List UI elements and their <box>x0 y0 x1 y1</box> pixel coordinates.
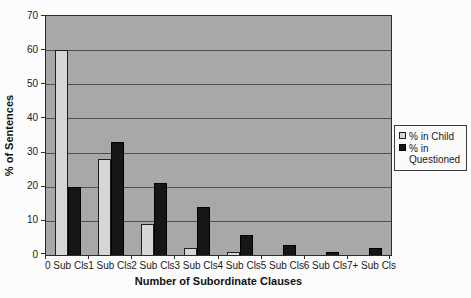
gridline <box>46 84 391 85</box>
gridline <box>46 50 391 51</box>
x-tick-mark <box>174 256 175 259</box>
bar-chart-figure: % of Sentences 010203040506070 0 Sub Cls… <box>0 0 471 298</box>
gridline <box>46 118 391 119</box>
x-axis-title: Number of Subordinate Clauses <box>45 275 392 287</box>
y-tick-label: 30 <box>0 146 38 157</box>
y-axis-labels: 010203040506070 <box>0 15 40 256</box>
bar-child-2-sub-cls <box>141 224 154 255</box>
x-category-label: 5 Sub Cls <box>261 260 304 271</box>
y-tick-label: 60 <box>0 44 38 55</box>
x-category-label: 2 Sub Cls <box>131 260 174 271</box>
plot-area <box>45 15 392 256</box>
y-tick-label: 50 <box>0 78 38 89</box>
bar-child-0-sub-cls <box>55 50 68 255</box>
x-tick-mark <box>347 256 348 259</box>
bar-child-3-sub-cls <box>184 248 197 255</box>
x-category-label: 3 Sub Cls <box>174 260 217 271</box>
x-tick-mark <box>304 256 305 259</box>
bar-questioned-3-sub-cls <box>197 207 210 255</box>
questioned-series-swatch-icon <box>399 144 406 151</box>
x-tick-mark <box>389 256 390 259</box>
x-category-label: 1 Sub Cls <box>88 260 131 271</box>
y-tick-label: 70 <box>0 10 38 21</box>
bar-questioned-0-sub-cls <box>68 187 81 255</box>
x-category-label: 4 Sub Cls <box>218 260 261 271</box>
child-series-swatch-icon <box>399 132 406 139</box>
x-tick-mark <box>45 256 46 259</box>
legend-label-questioned: % in Questioned <box>409 143 463 165</box>
bar-child-1-sub-cls <box>98 159 111 255</box>
bar-questioned-5-sub-cls <box>283 245 296 255</box>
legend-label-child: % in Child <box>409 131 454 142</box>
bar-questioned-2-sub-cls <box>154 183 167 255</box>
y-tick-label: 0 <box>0 249 38 260</box>
legend-item-questioned: % in Questioned <box>399 143 463 165</box>
legend: % in Child % in Questioned <box>394 125 467 171</box>
x-tick-mark <box>218 256 219 259</box>
gridline <box>46 153 391 154</box>
x-category-label: 0 Sub Cls <box>45 260 88 271</box>
x-tick-mark <box>88 256 89 259</box>
bar-questioned-4-sub-cls <box>240 235 253 255</box>
bar-child-4-sub-cls <box>227 252 240 255</box>
x-category-label: 6 Sub Cls <box>304 260 347 271</box>
bar-questioned-6-sub-cls <box>326 252 339 255</box>
x-category-label: 7+ Sub Cls <box>347 260 390 271</box>
bar-questioned-7-sub-cls <box>369 248 382 255</box>
x-tick-mark <box>261 256 262 259</box>
x-tick-mark <box>131 256 132 259</box>
y-tick-label: 20 <box>0 180 38 191</box>
x-axis-category-labels: 0 Sub Cls1 Sub Cls2 Sub Cls3 Sub Cls4 Su… <box>45 260 392 272</box>
bar-questioned-1-sub-cls <box>111 142 124 255</box>
y-tick-label: 40 <box>0 112 38 123</box>
legend-item-child: % in Child <box>399 131 463 142</box>
y-tick-label: 10 <box>0 214 38 225</box>
